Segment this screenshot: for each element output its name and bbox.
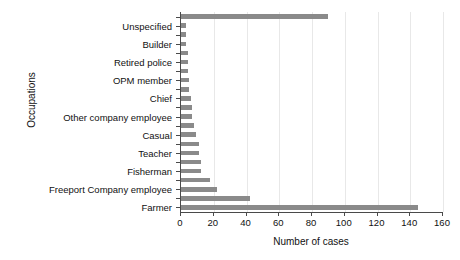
bar: [181, 42, 186, 47]
y-axis-tick: [176, 26, 180, 27]
x-axis-tick-label: 160: [422, 217, 460, 228]
y-axis-tick-label: OPM member: [113, 75, 172, 86]
x-axis-tick: [213, 212, 214, 216]
bar: [181, 123, 194, 128]
y-axis-tick: [176, 117, 180, 118]
y-axis-tick: [176, 107, 180, 108]
y-axis-tick-label: Fisherman: [127, 166, 172, 177]
y-axis-tick: [176, 126, 180, 127]
y-axis-tick: [176, 135, 180, 136]
bar: [181, 14, 328, 19]
gridline: [443, 12, 444, 212]
y-axis-tick-label: Freeport Company employee: [49, 184, 172, 195]
gridline: [247, 12, 248, 212]
horizontal-bar-chart: Occupations Number of cases 020406080100…: [0, 0, 460, 260]
y-axis-tick-label: Builder: [142, 38, 172, 49]
bar: [181, 196, 250, 201]
bar: [181, 105, 192, 110]
bar: [181, 169, 201, 174]
bar: [181, 160, 201, 165]
x-axis-tick: [180, 212, 181, 216]
y-axis-tick: [176, 162, 180, 163]
bar: [181, 78, 189, 83]
gridline: [410, 12, 411, 212]
bar: [181, 178, 210, 183]
y-axis-tick: [176, 35, 180, 36]
bar: [181, 23, 186, 28]
x-axis-tick: [442, 212, 443, 216]
x-axis-tick: [311, 212, 312, 216]
bar: [181, 32, 186, 37]
y-axis-tick-label: Chief: [150, 93, 172, 104]
y-axis-tick: [176, 144, 180, 145]
gridline: [378, 12, 379, 212]
bar: [181, 60, 188, 65]
x-axis-title: Number of cases: [180, 236, 442, 247]
gridline: [279, 12, 280, 212]
y-axis-tick-label: Farmer: [141, 202, 172, 213]
y-axis-tick: [176, 80, 180, 81]
bar: [181, 132, 196, 137]
gridline: [345, 12, 346, 212]
y-axis-tick: [176, 207, 180, 208]
y-axis-tick: [176, 89, 180, 90]
gridline: [312, 12, 313, 212]
bar: [181, 69, 188, 74]
y-axis-tick: [176, 17, 180, 18]
y-axis-tick: [176, 53, 180, 54]
bar: [181, 114, 192, 119]
bar: [181, 87, 189, 92]
x-axis-tick: [409, 212, 410, 216]
y-axis-tick-label: Casual: [142, 129, 172, 140]
y-axis-tick-label: Teacher: [138, 147, 172, 158]
y-axis-title: Occupations: [26, 72, 37, 128]
x-axis-tick: [278, 212, 279, 216]
bar: [181, 51, 188, 56]
bar: [181, 187, 217, 192]
bar: [181, 96, 191, 101]
plot-area: [180, 12, 442, 212]
bar: [181, 205, 418, 210]
y-axis-tick: [176, 98, 180, 99]
x-axis-tick: [377, 212, 378, 216]
y-axis-tick: [176, 171, 180, 172]
y-axis-tick: [176, 198, 180, 199]
x-axis-tick: [246, 212, 247, 216]
y-axis-tick-label: Other company employee: [63, 111, 172, 122]
y-axis-tick: [176, 44, 180, 45]
y-axis-tick: [176, 62, 180, 63]
y-axis-tick: [176, 71, 180, 72]
bar: [181, 142, 199, 147]
y-axis-tick: [176, 180, 180, 181]
y-axis-tick: [176, 153, 180, 154]
bar: [181, 151, 199, 156]
y-axis-tick-label: Retired police: [114, 57, 172, 68]
y-axis-tick-label: Unspecified: [122, 20, 172, 31]
x-axis-tick: [344, 212, 345, 216]
gridline: [214, 12, 215, 212]
y-axis-tick: [176, 189, 180, 190]
